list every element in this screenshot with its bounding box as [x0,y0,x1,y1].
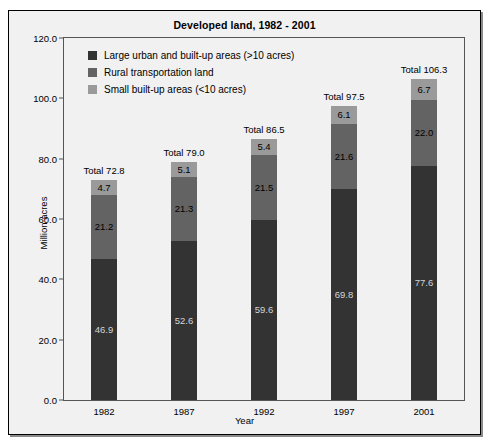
bar-total-label: Total 106.3 [401,64,447,75]
bar-segment-value: 4.7 [97,183,110,193]
y-axis-tick-label: 60.0 [39,214,58,225]
y-axis-tick-label: 40.0 [39,274,58,285]
y-axis-tick-label: 100.0 [33,93,57,104]
y-axis-tick-mark [59,339,64,340]
bar-segment[interactable]: 6.7 [411,79,437,99]
bar-total-label: Total 86.5 [243,124,284,135]
bar-segment[interactable]: 4.7 [91,180,117,194]
y-axis-tick-mark [59,219,64,220]
bar-segment[interactable]: 21.5 [251,155,277,220]
bar-total-label: Total 72.8 [83,165,124,176]
chart-figure: Developed land, 1982 - 2001 Million acre… [8,10,481,435]
legend-swatch-icon [88,85,97,94]
bar-segment-value: 77.6 [415,278,434,288]
bar-segment[interactable]: 21.2 [91,195,117,259]
stacked-bar[interactable]: 5.421.559.6Total 86.5 [251,139,277,400]
bar-segment-value: 52.6 [175,316,194,326]
bar-segment-value: 5.4 [257,142,270,152]
bar-segment[interactable]: 6.1 [331,106,357,124]
legend-swatch-icon [88,51,97,60]
bar-segment-value: 69.8 [335,290,354,300]
stacked-bar[interactable]: 6.121.669.8Total 97.5 [331,106,357,400]
bar-segment-value: 21.3 [175,204,194,214]
bar-segment[interactable]: 59.6 [251,220,277,400]
y-axis-tick-mark [59,400,64,401]
plot-area: 0.020.040.060.080.0100.0120.0 1982198719… [63,37,465,401]
bar-total-label: Total 97.5 [323,91,364,102]
legend-item[interactable]: Rural transportation land [88,65,294,80]
bar-segment[interactable]: 77.6 [411,166,437,400]
bar-segment-value: 6.7 [417,85,430,95]
bar-segment[interactable]: 5.4 [251,139,277,155]
bar-segment-value: 21.5 [255,183,274,193]
bar-segment[interactable]: 21.3 [171,177,197,241]
chart-legend: Large urban and built-up areas (>10 acre… [88,48,294,99]
stacked-bar[interactable]: 4.721.246.9Total 72.8 [91,180,117,400]
bar-segment[interactable]: 52.6 [171,241,197,400]
y-axis-tick-mark [59,98,64,99]
bar-segment-value: 59.6 [255,305,274,315]
bar-total-label: Total 79.0 [163,147,204,158]
legend-swatch-icon [88,68,97,77]
y-axis-tick-mark [59,38,64,39]
bar-segment[interactable]: 22.0 [411,100,437,166]
stacked-bar[interactable]: 6.722.077.6Total 106.3 [411,79,437,400]
bar-segment-value: 21.6 [335,152,354,162]
y-axis-tick-mark [59,279,64,280]
legend-label: Rural transportation land [104,67,214,78]
bar-segment[interactable]: 21.6 [331,124,357,189]
stacked-bar[interactable]: 5.121.352.6Total 79.0 [171,162,197,400]
y-axis-tick-label: 120.0 [33,33,57,44]
y-axis-tick-label: 0.0 [44,395,57,406]
bar-segment-value: 5.1 [177,165,190,175]
bar-segment[interactable]: 46.9 [91,259,117,400]
y-axis-tick-label: 20.0 [39,334,58,345]
bar-segment-value: 22.0 [415,128,434,138]
bar-segment-value: 46.9 [95,325,114,335]
x-axis-label: Year [9,415,480,426]
y-axis-tick-mark [59,158,64,159]
bar-segment-value: 6.1 [337,110,350,120]
legend-label: Large urban and built-up areas (>10 acre… [104,50,294,61]
bar-segment[interactable]: 69.8 [331,189,357,400]
legend-item[interactable]: Large urban and built-up areas (>10 acre… [88,48,294,63]
chart-title: Developed land, 1982 - 2001 [9,19,480,31]
bar-segment[interactable]: 5.1 [171,162,197,177]
legend-item[interactable]: Small built-up areas (<10 acres) [88,82,294,97]
bar-segment-value: 21.2 [95,222,114,232]
legend-label: Small built-up areas (<10 acres) [104,84,246,95]
y-axis-tick-label: 80.0 [39,153,58,164]
